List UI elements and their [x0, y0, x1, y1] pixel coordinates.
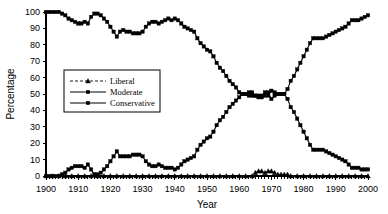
data-point: [112, 30, 115, 33]
data-point: [96, 173, 99, 176]
data-point: [64, 14, 67, 17]
data-point: [189, 28, 192, 31]
x-tick-label: 1920: [100, 184, 120, 194]
data-point: [228, 105, 231, 108]
data-point: [138, 32, 141, 35]
data-point: [295, 117, 298, 120]
data-point: [254, 94, 257, 97]
data-point: [215, 123, 218, 126]
data-point: [67, 168, 70, 171]
data-point: [99, 171, 102, 174]
data-point: [44, 10, 47, 13]
data-point: [321, 148, 324, 151]
data-point: [350, 19, 353, 22]
data-point: [353, 166, 356, 169]
data-point: [292, 110, 295, 113]
data-point: [321, 37, 324, 40]
data-point: [299, 61, 302, 64]
data-point: [363, 15, 366, 18]
data-point: [337, 28, 340, 31]
y-tick-label: 10: [30, 155, 40, 165]
data-point: [347, 163, 350, 166]
data-point: [122, 155, 125, 158]
data-point: [225, 74, 228, 77]
data-point: [312, 37, 315, 40]
data-point: [89, 168, 92, 171]
data-point: [77, 22, 80, 25]
x-tick-label: 2000: [358, 184, 378, 194]
data-point: [96, 12, 99, 15]
data-point: [337, 156, 340, 159]
data-point: [279, 92, 282, 95]
data-point: [160, 20, 163, 23]
data-point: [286, 87, 289, 90]
data-point: [305, 137, 308, 140]
data-point: [134, 32, 137, 35]
data-point: [350, 166, 353, 169]
y-tick-label: 90: [30, 23, 40, 33]
data-point: [221, 115, 224, 118]
data-point: [125, 30, 128, 33]
data-point: [125, 155, 128, 158]
data-point: [67, 17, 70, 20]
data-point: [238, 91, 241, 94]
data-point: [302, 55, 305, 58]
data-point: [157, 163, 160, 166]
data-point: [147, 22, 150, 25]
legend-label: Conservative: [110, 98, 155, 108]
data-point: [360, 168, 363, 171]
data-point: [334, 30, 337, 33]
data-point: [128, 30, 131, 33]
data-point: [163, 19, 166, 22]
data-point: [70, 19, 73, 22]
data-point: [180, 22, 183, 25]
data-point: [247, 91, 250, 94]
data-point: [112, 155, 115, 158]
x-tick-label: 1970: [261, 184, 281, 194]
x-tick-label: 1980: [294, 184, 314, 194]
data-point: [48, 10, 51, 13]
data-point: [196, 148, 199, 151]
data-point: [109, 160, 112, 163]
data-point: [105, 20, 108, 23]
data-point: [286, 97, 289, 100]
data-point: [151, 20, 154, 23]
x-tick-label: 1930: [133, 184, 153, 194]
data-point: [228, 79, 231, 82]
data-point: [215, 61, 218, 64]
data-point: [363, 168, 366, 171]
data-point: [115, 35, 118, 38]
data-point: [276, 92, 279, 95]
data-point: [238, 96, 241, 99]
data-point: [180, 163, 183, 166]
data-point: [202, 140, 205, 143]
data-point: [173, 17, 176, 20]
data-point: [147, 163, 150, 166]
data-point: [186, 158, 189, 161]
data-point: [209, 50, 212, 53]
data-point: [318, 148, 321, 151]
data-point: [357, 166, 360, 169]
data-point: [157, 22, 160, 25]
data-point: [64, 171, 67, 174]
data-point: [183, 160, 186, 163]
data-point: [170, 19, 173, 22]
data-point: [109, 25, 112, 28]
data-point: [77, 164, 80, 167]
data-point: [44, 174, 47, 177]
data-point: [212, 130, 215, 133]
data-point: [302, 130, 305, 133]
data-point: [199, 143, 202, 146]
data-point: [218, 66, 221, 69]
data-point: [295, 68, 298, 71]
data-point: [183, 25, 186, 28]
data-point: [154, 164, 157, 167]
data-point: [328, 151, 331, 154]
data-point: [160, 164, 163, 167]
data-point: [366, 168, 369, 171]
x-tick-label: 1950: [197, 184, 217, 194]
data-point: [285, 172, 290, 176]
data-point: [283, 92, 286, 95]
data-point: [225, 110, 228, 113]
y-axis-ticks: 0102030405060708090100: [25, 7, 46, 181]
